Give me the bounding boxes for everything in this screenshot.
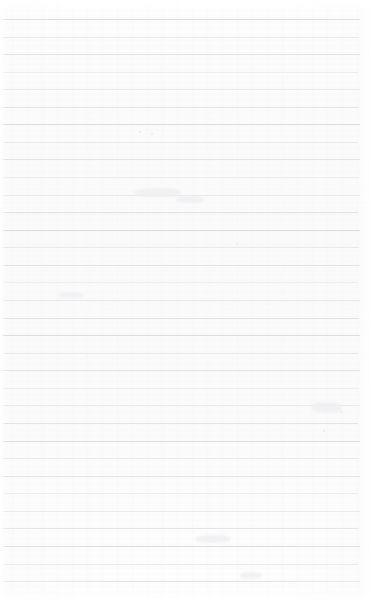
- lined-paper-page: [0, 0, 372, 602]
- page-writing-area[interactable]: [2, 19, 360, 590]
